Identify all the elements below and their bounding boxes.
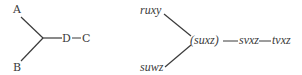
- edge-a-junction: [21, 17, 43, 38]
- node-a-label: A: [13, 4, 21, 15]
- node-suwz-label: suwz: [140, 62, 163, 73]
- node-ruxy-label: ruxy: [140, 5, 161, 16]
- node-b-label: B: [13, 62, 21, 73]
- edge-suwz-junction: [165, 45, 191, 67]
- node-c-label: C: [82, 33, 90, 44]
- edge-b-junction: [21, 38, 43, 61]
- node-suxz-label: (suxz): [190, 35, 219, 46]
- edge-ruxy-junction: [164, 14, 191, 36]
- node-svxz-label: svxz: [239, 35, 259, 46]
- node-d-label: D: [62, 33, 71, 44]
- node-tvxz-label: tvxz: [272, 35, 291, 46]
